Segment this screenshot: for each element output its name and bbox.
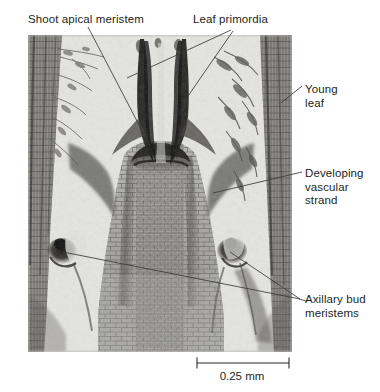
label-shoot-apical-meristem: Shoot apical meristem (28, 13, 144, 27)
label-axillary-bud-meristems: Axillary bud meristems (305, 293, 366, 320)
micrograph-image (28, 35, 292, 352)
label-developing-vascular-strand: Developing vascular strand (305, 167, 364, 208)
scale-bar-caption: 0.25 mm (196, 370, 288, 382)
label-leaf-primordia: Leaf primordia (193, 13, 268, 27)
label-young-leaf: Young leaf (305, 83, 338, 110)
figure-panel: Shoot apical meristem Leaf primordia You… (0, 0, 380, 392)
scale-bar (190, 355, 296, 371)
